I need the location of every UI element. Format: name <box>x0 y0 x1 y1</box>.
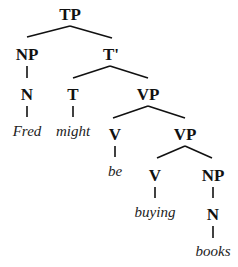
edge-vp-np <box>185 146 212 158</box>
node-n-object: N <box>207 205 220 224</box>
node-t: T <box>67 85 79 104</box>
edge-tp-np <box>27 26 70 37</box>
node-vp-lower: VP <box>174 125 197 144</box>
word-buying: buying <box>135 204 176 220</box>
word-be: be <box>108 163 123 179</box>
node-np-object: NP <box>202 166 225 185</box>
node-n-subject: N <box>21 85 34 104</box>
word-books: books <box>196 243 231 259</box>
node-vp-upper: VP <box>137 85 160 104</box>
word-fred: Fred <box>12 123 42 139</box>
node-t-bar: T' <box>103 45 119 64</box>
node-v-upper: V <box>109 125 122 144</box>
edge-tp-tbar <box>70 26 112 38</box>
edge-vp-v <box>113 106 148 118</box>
node-np-subject: NP <box>16 45 39 64</box>
edge-vp-vp <box>148 106 185 118</box>
edge-vp-v2 <box>157 146 185 158</box>
node-tp: TP <box>59 5 81 24</box>
edge-tbar-t <box>73 66 110 78</box>
word-might: might <box>56 123 91 139</box>
edge-tbar-vp <box>110 66 148 78</box>
syntax-tree-diagram: TP NP T' N T VP V VP V NP N Fred might b… <box>0 0 238 267</box>
node-v-lower: V <box>149 166 162 185</box>
